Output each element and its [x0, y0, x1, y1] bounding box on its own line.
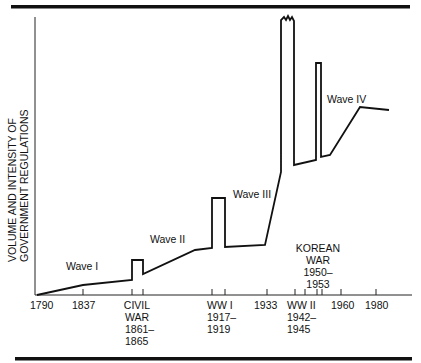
svg-text:WW II: WW II: [287, 299, 316, 311]
svg-text:1861–: 1861–: [125, 323, 154, 335]
annotation-wave-1: Wave I: [66, 260, 98, 272]
top-rule: [11, 5, 410, 9]
period-ww2: WW II 1942– 1945: [287, 299, 316, 335]
y-axis-label: VOLUME AND INTENSITY OF GOVERNMENT REGUL…: [6, 110, 30, 262]
svg-text:GOVERNMENT REGULATIONS: GOVERNMENT REGULATIONS: [18, 110, 30, 262]
svg-text:1950–: 1950–: [303, 266, 332, 278]
annotation-wave-3: Wave III: [233, 188, 271, 200]
annotation-wave-2: Wave II: [150, 233, 185, 245]
bottom-rule: [15, 357, 412, 361]
tick-1837: 1837: [72, 299, 96, 311]
svg-text:1865: 1865: [125, 335, 149, 347]
svg-text:KOREAN: KOREAN: [296, 242, 340, 254]
svg-text:1945: 1945: [287, 323, 311, 335]
period-ww1: WW I 1917– 1919: [207, 299, 236, 335]
x-axis-ticks: [83, 289, 376, 295]
svg-text:1953: 1953: [306, 278, 330, 290]
period-civil-war: CIVIL WAR 1861– 1865: [124, 299, 154, 347]
svg-text:1919: 1919: [207, 323, 231, 335]
svg-text:1942–: 1942–: [287, 311, 316, 323]
tick-1933: 1933: [254, 299, 278, 311]
tick-1980: 1980: [365, 299, 389, 311]
svg-text:WAR: WAR: [125, 311, 150, 323]
svg-text:1917–: 1917–: [207, 311, 236, 323]
tick-1790: 1790: [30, 299, 54, 311]
tick-1960: 1960: [331, 299, 355, 311]
regulation-waves-chart: VOLUME AND INTENSITY OF GOVERNMENT REGUL…: [0, 0, 421, 363]
svg-text:WAR: WAR: [306, 254, 331, 266]
period-korean-war: KOREAN WAR 1950– 1953: [296, 242, 340, 290]
svg-text:WW I: WW I: [207, 299, 233, 311]
svg-text:CIVIL: CIVIL: [124, 299, 150, 311]
annotation-wave-4: Wave IV: [327, 93, 366, 105]
svg-text:VOLUME AND INTENSITY OF: VOLUME AND INTENSITY OF: [6, 118, 18, 262]
